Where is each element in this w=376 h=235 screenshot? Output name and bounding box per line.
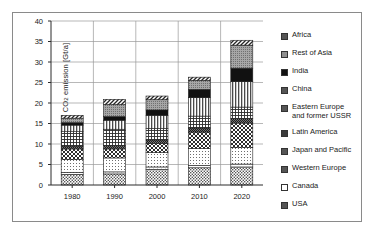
bar-segment [146,144,168,153]
legend-swatch-vertical-lines-icon [281,87,288,94]
bar-segment [146,140,168,144]
bar-segment [231,107,253,118]
legend-item-rest-of-asia[interactable]: Rest of Asia [281,49,332,58]
legend-swatch-blank-white-icon [281,184,288,191]
bar-segment [146,169,168,185]
bar-segment [61,115,83,118]
legend-item-usa[interactable]: USA [281,200,307,209]
legend-label: Canada [292,182,318,191]
bar-segment [104,146,126,149]
figure-frame: CO2 emission [Gt/a] 0510152025303540 198… [12,12,362,222]
legend-label: Western Europe [292,164,346,173]
bar-segment [104,174,126,185]
bar-segment [104,105,126,117]
bar-segment [104,172,126,174]
legend-swatch-gray-stipple-icon [281,51,288,58]
legend-swatch-dark-stipple-icon [281,130,288,137]
bar-segment [61,125,83,132]
bar-segment [231,164,253,167]
bar-segment [231,82,253,107]
legend-swatch-diagonal-hatch-icon [281,33,288,40]
bar-segment [104,129,126,145]
bar-segment [146,96,168,100]
bar-segment [61,118,83,123]
bar-segment [61,123,83,125]
bar-segment [146,153,168,167]
legend-label: Eastern Europe and former USSR [292,103,351,120]
bar-segment [188,149,210,166]
bar-segment [188,132,210,148]
bar-segment [231,45,253,68]
bar-segment [188,77,210,80]
legend-label: Japan and Pacific [292,146,351,155]
legend-item-latin-america[interactable]: Latin America [281,128,337,137]
legend-label: India [292,67,308,76]
bar-segment [188,89,210,97]
bar-segment [188,168,210,185]
bar-segment [61,149,83,160]
legend-swatch-fine-grid-icon [281,105,288,112]
legend-label: China [292,85,312,94]
bar-segment [61,172,83,174]
bar-segment [231,119,253,124]
legend-label: Latin America [292,128,337,137]
bar-segment [104,149,126,158]
bar-segment [104,120,126,129]
legend-item-china[interactable]: China [281,85,312,94]
legend-item-africa[interactable]: Africa [281,31,311,40]
legend-label: Rest of Asia [292,49,332,58]
bar-segment [104,117,126,121]
bar-segment [188,80,210,89]
bar-segment [146,110,168,115]
bar-segment [146,100,168,110]
bar-segment [188,98,210,116]
legend-swatch-light-dots-icon [281,166,288,173]
legend-item-eastern-europe-and-former-ussr[interactable]: Eastern Europe and former USSR [281,103,351,120]
legend-item-india[interactable]: India [281,67,308,76]
bar-segment [61,146,83,149]
bar-segment [61,160,83,173]
bar-segment [231,123,253,148]
bar-segment [231,148,253,164]
bar-segment [188,165,210,167]
bar-segment [231,40,253,45]
bar-segment [146,115,168,128]
legend-label: Africa [292,31,311,40]
legend-swatch-solid-black-icon [281,69,288,76]
bar-segment [231,167,253,185]
bar-segment [231,68,253,82]
chart-figure: CO2 emission [Gt/a] 0510152025303540 198… [0,0,376,235]
legend-item-western-europe[interactable]: Western Europe [281,164,346,173]
bar-segment [61,174,83,185]
legend-label: USA [292,200,307,209]
bar-segment [61,132,83,146]
legend-swatch-medium-stipple-icon [281,202,288,209]
bar-segment [188,128,210,132]
legend-swatch-checkerboard-icon [281,148,288,155]
bar-segment [146,128,168,139]
bar-segment [104,99,126,104]
legend-item-canada[interactable]: Canada [281,182,318,191]
legend-item-japan-and-pacific[interactable]: Japan and Pacific [281,146,351,155]
bar-segment [146,167,168,169]
bar-segment [104,158,126,172]
bar-segment [188,116,210,128]
